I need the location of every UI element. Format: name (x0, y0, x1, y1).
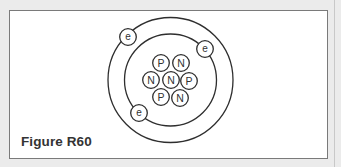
figure-stage: PNNNPPN eee Figure R60 (0, 0, 341, 167)
figure-caption: Figure R60 (21, 134, 92, 149)
neutron-particle: N (173, 55, 190, 72)
electron-symbol: e (125, 31, 131, 42)
neutron-symbol: N (177, 57, 185, 69)
electron-particle: e (131, 105, 148, 122)
neutron-symbol: N (176, 92, 184, 104)
neutron-symbol: N (167, 74, 175, 86)
proton-symbol: P (185, 75, 192, 87)
neutron-symbol: N (147, 74, 155, 86)
electron-symbol: e (136, 107, 142, 118)
neutron-particle: N (143, 72, 160, 89)
proton-particle: P (153, 55, 170, 72)
proton-particle: P (153, 89, 170, 106)
proton-symbol: P (157, 91, 164, 103)
electron-symbol: e (202, 43, 208, 54)
electron-particle: e (120, 29, 137, 46)
proton-particle: P (181, 73, 198, 90)
electron-particle: e (197, 41, 214, 58)
atom-nucleus: PNNNPPN (143, 55, 198, 107)
proton-symbol: P (157, 57, 164, 69)
neutron-particle: N (163, 72, 180, 89)
neutron-particle: N (172, 90, 189, 107)
